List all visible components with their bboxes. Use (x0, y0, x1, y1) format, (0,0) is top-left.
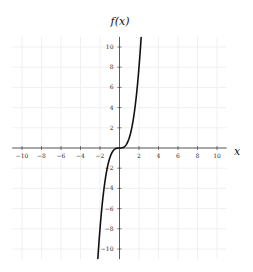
y-tick-label: 10 (106, 43, 114, 50)
x-tick-label: 2 (137, 152, 141, 159)
y-tick-label: −2 (105, 164, 114, 171)
x-axis-label: x (234, 145, 241, 158)
x-tick-label: 4 (157, 152, 161, 159)
y-tick-label: −10 (101, 245, 114, 252)
y-tick-label: 2 (110, 124, 114, 131)
x-tick-label: 8 (196, 152, 200, 159)
x-tick-label: 10 (213, 152, 221, 159)
y-tick-label: 8 (110, 63, 114, 70)
y-tick-label: −6 (105, 205, 114, 212)
y-tick-label: 4 (110, 104, 114, 111)
x-tick-label: −4 (76, 152, 85, 159)
x-tick-label: −6 (57, 152, 66, 159)
x-tick-label: −10 (16, 152, 29, 159)
x-tick-label: −2 (96, 152, 105, 159)
x-tick-label: −8 (37, 152, 46, 159)
y-axis-label: f(x) (110, 15, 130, 28)
y-tick-label: −8 (105, 225, 114, 232)
x-tick-label: 6 (176, 152, 180, 159)
function-plot: −10−8−6−4−2246810−10−8−6−4−2246810 f(x) … (0, 0, 253, 272)
y-tick-label: 6 (110, 83, 114, 90)
y-tick-label: −4 (105, 184, 114, 191)
